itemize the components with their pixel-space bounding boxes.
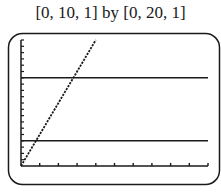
axes [21,40,208,166]
plot-series [21,40,208,166]
calculator-screen [0,0,221,195]
screen-frame [9,34,220,185]
series-line [21,40,96,166]
